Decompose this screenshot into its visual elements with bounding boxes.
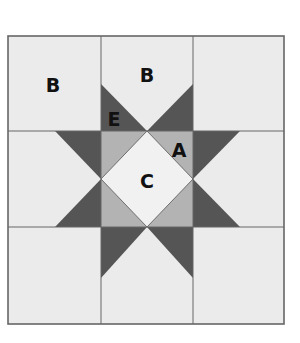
label-e: E [108, 108, 121, 130]
quilt-block-diagram: B B E A C [0, 0, 300, 343]
label-a: A [172, 139, 187, 161]
label-c: C [140, 170, 154, 192]
label-b-top: B [140, 64, 154, 86]
label-b-corner: B [46, 74, 60, 96]
